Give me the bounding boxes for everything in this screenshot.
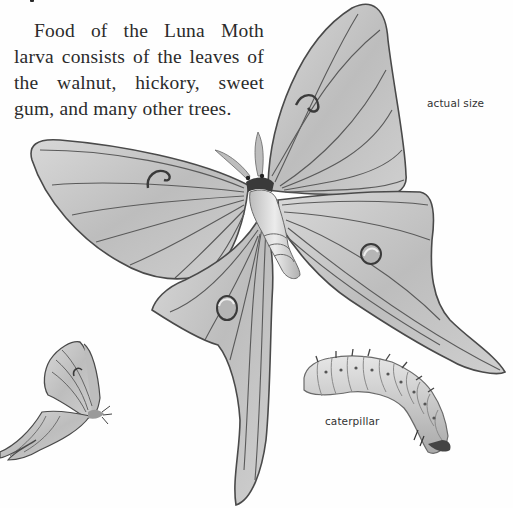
luna-moth-caterpillar xyxy=(304,349,451,453)
book-page: Food of the Luna Moth larva consists of … xyxy=(0,0,513,508)
left-hindwing-eyespot xyxy=(217,296,237,320)
right-forewing xyxy=(268,4,406,197)
illustration-layer xyxy=(0,0,513,508)
left-forewing xyxy=(31,140,248,279)
right-hindwing xyxy=(278,192,505,374)
luna-moth-side-view xyxy=(0,342,112,460)
right-hindwing-eyespot xyxy=(361,244,381,264)
antenna-right xyxy=(255,132,263,176)
actual-size-caption: actual size xyxy=(427,97,484,109)
caterpillar-caption: caterpillar xyxy=(325,415,379,427)
